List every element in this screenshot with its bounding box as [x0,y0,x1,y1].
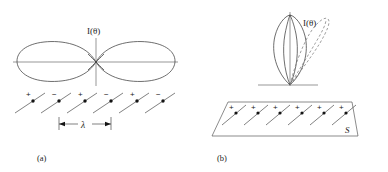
panel-a-dipole-sign-3: + [78,90,83,99]
panel-a-dipole-dot-5 [135,99,138,102]
panel-b-surface-outline [212,102,358,136]
panel-b-dipole-3: + [266,103,290,125]
panel-a-lobe-cross-ur [96,54,104,62]
panel-b-dipole-dot-4 [300,111,303,114]
panel-b-dipole-4: + [288,103,312,125]
panel-b-dipole-dot-3 [278,111,281,114]
panel-b-surface-label: S [345,125,350,135]
panel-b-dipole-2: + [244,103,268,125]
panel-a-caption: (a) [37,153,47,163]
panel-b: I(θ) + + + [212,12,358,163]
panel-a-lobe-right [96,42,175,82]
panel-b-dipole-sign-3: + [273,103,278,112]
panel-b-solid-lobe-inner-left [284,15,290,85]
panel-a-dipole-dot-3 [83,99,86,102]
panel-a-dipole-dot-1 [31,99,34,102]
panel-a-dipole-array: + − + − [15,90,175,113]
panel-b-intensity-label: I(θ) [303,18,316,28]
panel-a-lobe-left [17,42,96,82]
panel-a-dipole-sign-4: − [104,90,109,99]
panel-a-dipole-dot-6 [161,99,164,102]
panel-a-dim-arrow-left [59,122,65,126]
panel-a-dipole-dot-2 [57,99,60,102]
panel-a-spacing-label: λ [80,120,85,130]
panel-a-intensity-label: I(θ) [87,26,100,36]
panel-a-spacing-dimension: λ [59,117,111,130]
panel-a-lobe-cross-lr [96,62,104,70]
panel-b-dipole-6: + [332,103,356,125]
physics-figure: I(θ) + − + [0,0,388,172]
panel-a-lobe-cross-ul [88,54,96,62]
panel-a-dipole-sign-5: + [130,90,135,99]
figure-container: I(θ) + − + [0,0,388,172]
panel-b-dipole-sign-4: + [295,103,300,112]
panel-b-dipole-5: + [310,103,334,125]
panel-b-dipole-sign-5: + [317,103,322,112]
panel-b-surface [212,102,358,136]
panel-b-dipole-dot-6 [344,111,347,114]
panel-a-dipole-2: − [41,90,71,113]
panel-b-dipole-array: + + + + [222,103,356,125]
panel-b-solid-lobe-inner-right [290,15,297,85]
panel-a-dim-arrow-right [105,122,111,126]
panel-b-dipole-sign-2: + [251,103,256,112]
panel-b-caption: (b) [217,153,227,163]
panel-a-dipole-3: + [67,90,97,113]
panel-a-dipole-sign-2: − [52,90,57,99]
panel-a-dipole-1: + [15,90,45,113]
panel-b-dipole-dot-5 [322,111,325,114]
panel-a-dipole-6: − [145,90,175,113]
panel-a-lobe-cross-ll [88,62,96,70]
panel-a-dipole-4: − [93,90,123,113]
panel-a: I(θ) + − + [13,26,178,163]
panel-b-dipole-dot-2 [256,111,259,114]
panel-b-dipole-sign-6: + [339,103,344,112]
panel-a-dipole-5: + [119,90,149,113]
panel-a-dipole-sign-6: − [156,90,161,99]
panel-a-dipole-sign-1: + [26,90,31,99]
panel-b-dipole-dot-1 [234,111,237,114]
panel-b-dipole-sign-1: + [229,103,234,112]
panel-a-dipole-dot-4 [109,99,112,102]
